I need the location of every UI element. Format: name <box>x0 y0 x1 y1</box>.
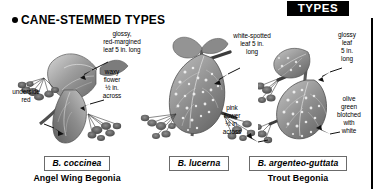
bullet-dot-icon <box>12 17 18 23</box>
latin-name-box: B. lucerna <box>169 156 230 171</box>
page-title: CANE-STEMMED TYPES <box>12 14 165 26</box>
page-edge-rule <box>371 18 373 189</box>
latin-name-box: B. argenteo-guttata <box>249 156 348 171</box>
callout-pink-flower: pink flower ½ in. across <box>216 104 248 136</box>
begonia-types-page: TYPES CANE-STEMMED TYPES <box>0 0 376 189</box>
caption-b-argenteo-guttata: B. argenteo-guttata Trout Begonia <box>236 152 360 183</box>
callout-olive-green-blotched: olive green blotched with white <box>332 95 366 135</box>
callout-glossy-leaf: glossy leaf 5 in. long <box>330 31 364 63</box>
caption-b-coccinea: B. coccinea Angel Wing Begonia <box>14 152 140 183</box>
illustration-stage <box>0 28 368 150</box>
common-name: Angel Wing Begonia <box>14 174 140 183</box>
page-title-text: CANE-STEMMED TYPES <box>21 14 165 26</box>
callout-glossy-red-margined-leaf: glossy, red-margined leaf 5 in. long <box>94 30 150 54</box>
types-tab[interactable]: TYPES <box>287 1 349 16</box>
callout-underside-red: underside red <box>2 88 50 104</box>
callout-waxy-flower: waxy flower ½ in. across <box>92 68 132 100</box>
latin-name-box: B. coccinea <box>44 156 111 171</box>
callout-white-spotted-leaf: white-spotted leaf 5 in. long <box>228 32 276 56</box>
common-name: Trout Begonia <box>236 174 360 183</box>
